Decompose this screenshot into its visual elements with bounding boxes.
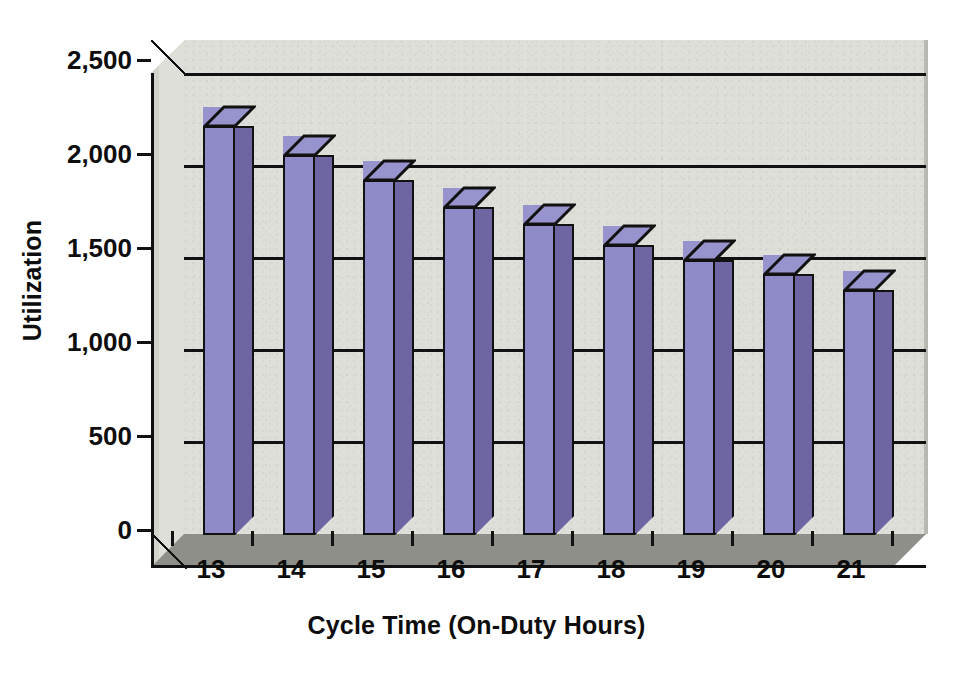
bar-17-front <box>523 224 555 535</box>
y-axis-tick-500 <box>137 435 151 438</box>
x-axis-tick-0 <box>171 531 174 546</box>
y-axis-label-1000: 1,000 <box>12 329 132 355</box>
x-axis-label-13: 13 <box>176 556 246 582</box>
x-axis-tick-4 <box>491 531 494 546</box>
bar-16-side <box>475 207 494 535</box>
bar-20[interactable] <box>763 274 795 535</box>
bar-20-top <box>763 255 795 274</box>
y-axis-tick-2500 <box>137 59 151 62</box>
bar-19[interactable] <box>683 260 715 535</box>
x-axis-label-14: 14 <box>256 556 326 582</box>
bar-19-front <box>683 260 715 535</box>
y-axis-label-2000: 2,000 <box>12 141 132 167</box>
bar-19-side <box>715 260 734 535</box>
bar-16-front <box>443 207 475 535</box>
bar-15[interactable] <box>363 180 395 535</box>
bar-18-side <box>635 245 654 535</box>
y-axis-tick-0 <box>137 529 151 532</box>
bar-15-side <box>395 180 414 535</box>
bar-15-top <box>363 161 395 180</box>
x-axis-tick-3 <box>411 531 414 546</box>
bar-18[interactable] <box>603 245 635 535</box>
bar-19-top <box>683 241 715 260</box>
bar-17-top <box>523 205 555 224</box>
y-axis-tick-2000 <box>137 153 151 156</box>
bar-13-top <box>203 107 235 126</box>
x-axis-label-16: 16 <box>416 556 486 582</box>
bar-20-front <box>763 274 795 535</box>
y-axis-label-0: 0 <box>12 517 132 543</box>
bar-21-side <box>875 290 894 535</box>
bar-14[interactable] <box>283 155 315 535</box>
bar-14-top <box>283 136 315 155</box>
bar-13[interactable] <box>203 126 235 535</box>
x-axis-label-15: 15 <box>336 556 406 582</box>
y-axis-line <box>151 73 154 568</box>
bar-13-front <box>203 126 235 535</box>
x-axis-tick-2 <box>331 531 334 546</box>
bar-20-side <box>795 274 814 535</box>
bar-16-top <box>443 188 475 207</box>
bar-16[interactable] <box>443 207 475 535</box>
bar-21[interactable] <box>843 290 875 535</box>
x-axis-label-21: 21 <box>816 556 886 582</box>
y-axis-label-1500: 1,500 <box>12 235 132 261</box>
bar-18-top <box>603 226 635 245</box>
y-axis-tick-1500 <box>137 247 151 250</box>
bar-21-front <box>843 290 875 535</box>
bar-17-side <box>555 224 574 535</box>
x-axis-tick-9 <box>891 531 894 546</box>
top-left-depth-edge <box>151 40 187 76</box>
x-axis-label-19: 19 <box>656 556 726 582</box>
x-axis-tick-5 <box>571 531 574 546</box>
plot-area <box>151 40 926 535</box>
x-axis-label-20: 20 <box>736 556 806 582</box>
x-axis-label-17: 17 <box>496 556 566 582</box>
bar-21-top <box>843 271 875 290</box>
chart-figure: Utilization Cycle Time (On-Duty Hours) 2… <box>0 0 953 687</box>
x-axis-tick-6 <box>651 531 654 546</box>
bar-14-side <box>315 155 334 535</box>
bar-18-front <box>603 245 635 535</box>
y-axis-label-2500: 2,500 <box>12 47 132 73</box>
bar-17[interactable] <box>523 224 555 535</box>
x-axis-label-18: 18 <box>576 556 646 582</box>
bar-series <box>151 40 926 568</box>
bar-13-side <box>235 126 254 535</box>
bar-14-front <box>283 155 315 535</box>
x-axis-tick-7 <box>731 531 734 546</box>
x-axis-tick-8 <box>811 531 814 546</box>
x-axis-tick-1 <box>251 531 254 546</box>
y-axis-tick-1000 <box>137 341 151 344</box>
bar-15-front <box>363 180 395 535</box>
y-axis-label-500: 500 <box>12 423 132 449</box>
